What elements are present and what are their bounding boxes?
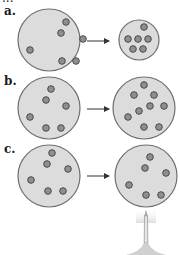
particle xyxy=(59,58,66,65)
particle xyxy=(60,188,67,195)
particle xyxy=(125,114,132,121)
particle xyxy=(44,161,51,168)
particle xyxy=(49,150,56,157)
particle xyxy=(27,47,34,54)
particle xyxy=(141,124,148,131)
particle xyxy=(73,58,80,65)
gas-particle-diagram xyxy=(0,0,180,255)
particle xyxy=(27,114,34,121)
particle xyxy=(145,36,152,43)
row-b-left-container xyxy=(18,77,80,139)
particle xyxy=(58,125,65,132)
particle xyxy=(80,36,87,43)
burner-flame-icon xyxy=(126,207,166,255)
particle xyxy=(58,30,65,37)
particle xyxy=(156,124,163,131)
row-a-right-container xyxy=(119,20,159,60)
row-a-left-container xyxy=(18,9,86,71)
particle xyxy=(65,166,72,173)
particle xyxy=(126,182,133,189)
particle xyxy=(131,92,138,99)
particle xyxy=(163,170,170,177)
row-c-left-container xyxy=(18,145,80,207)
particle xyxy=(63,19,70,26)
particle xyxy=(28,177,35,184)
particle xyxy=(158,192,165,199)
row-c-right-container xyxy=(115,145,177,207)
particle xyxy=(143,192,150,199)
particle xyxy=(125,36,132,43)
row-b-right-container xyxy=(113,77,175,139)
particle xyxy=(142,165,149,172)
particle xyxy=(130,46,137,53)
particle xyxy=(136,108,143,115)
particle xyxy=(43,125,50,132)
particle xyxy=(140,46,147,53)
particle xyxy=(48,86,55,93)
particle xyxy=(147,103,154,110)
particle xyxy=(63,103,70,110)
particle xyxy=(151,92,158,99)
particle xyxy=(135,36,142,43)
particle xyxy=(161,103,168,110)
particle xyxy=(147,154,154,161)
particle xyxy=(141,24,148,31)
particle xyxy=(141,82,148,89)
particle xyxy=(45,188,52,195)
particle xyxy=(43,97,50,104)
